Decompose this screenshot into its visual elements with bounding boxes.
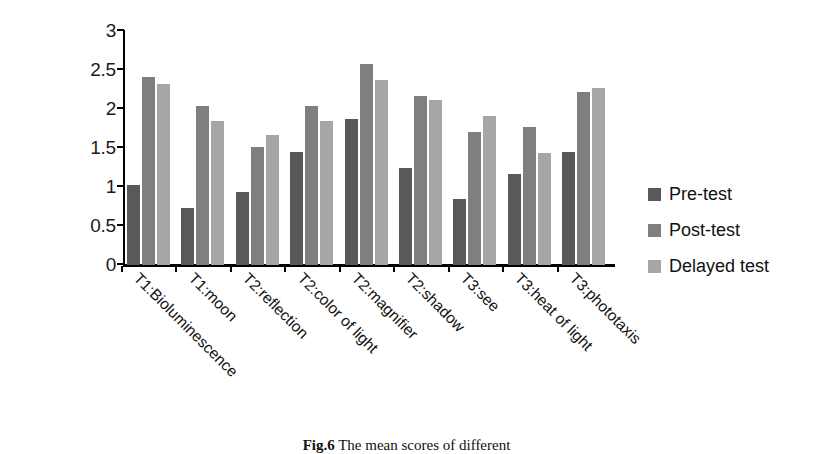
y-tick-mark	[117, 107, 124, 109]
bar[interactable]	[251, 147, 264, 265]
legend-label: Post-test	[669, 221, 740, 239]
bar-group	[399, 30, 442, 265]
bar[interactable]	[538, 153, 551, 265]
y-tick-mark	[117, 224, 124, 226]
legend-swatch-icon	[648, 224, 661, 237]
bar[interactable]	[508, 174, 521, 265]
bar-group	[453, 30, 496, 265]
bar[interactable]	[468, 132, 481, 265]
y-axis-tick-labels: 32.521.510.50	[80, 0, 116, 290]
bar[interactable]	[127, 185, 140, 265]
bar[interactable]	[290, 152, 303, 265]
chart-legend: Pre-testPost-testDelayed test	[648, 176, 808, 284]
x-category-label-text: T1:Bioluminescence	[131, 269, 242, 380]
legend-item[interactable]: Pre-test	[648, 176, 808, 212]
caption-figure-number: Fig.6	[303, 437, 335, 453]
bar[interactable]	[196, 106, 209, 265]
bar[interactable]	[375, 80, 388, 265]
bar[interactable]	[211, 121, 224, 265]
y-tick-mark	[117, 263, 124, 265]
x-axis-category-labels: T1:BioluminescenceT1:moonT2:reflectionT2…	[0, 270, 640, 410]
y-tick-label: 1.5	[90, 138, 116, 157]
x-category-label: T1:Bioluminescence	[131, 270, 241, 380]
y-tick-mark	[117, 29, 124, 31]
bar-group	[127, 30, 170, 265]
x-category-label: T1:moon	[186, 270, 240, 324]
bar[interactable]	[142, 77, 155, 265]
bar[interactable]	[157, 84, 170, 265]
bar-group	[508, 30, 551, 265]
y-tick-mark	[117, 68, 124, 70]
bar[interactable]	[577, 92, 590, 265]
bar-group	[562, 30, 605, 265]
legend-item[interactable]: Post-test	[648, 212, 808, 248]
y-tick-label: 0.5	[90, 216, 116, 235]
bar-group	[290, 30, 333, 265]
y-tick-label: 2	[106, 99, 116, 118]
bar[interactable]	[429, 100, 442, 265]
bar[interactable]	[320, 121, 333, 265]
y-tick-mark	[117, 185, 124, 187]
x-category-label-text: T1:moon	[185, 269, 240, 324]
bar-group	[181, 30, 224, 265]
bar[interactable]	[483, 116, 496, 265]
bar[interactable]	[399, 168, 412, 266]
bar[interactable]	[266, 135, 279, 265]
bar[interactable]	[592, 88, 605, 265]
legend-item[interactable]: Delayed test	[648, 248, 808, 284]
bar[interactable]	[453, 199, 466, 265]
y-tick-label: 2.5	[90, 60, 116, 79]
y-tick-label: 3	[106, 21, 116, 40]
legend-swatch-icon	[648, 188, 661, 201]
caption-text: The mean scores of different	[338, 437, 510, 453]
x-category-label: T3:see	[458, 270, 502, 314]
bar[interactable]	[181, 208, 194, 265]
bar[interactable]	[523, 127, 536, 265]
bar[interactable]	[360, 64, 373, 265]
bars-area	[125, 30, 615, 265]
bar-group	[236, 30, 279, 265]
x-category-label-text: T3:see	[458, 269, 504, 315]
bar-group	[345, 30, 388, 265]
legend-swatch-icon	[648, 260, 661, 273]
bar[interactable]	[414, 96, 427, 265]
y-tick-label: 1	[106, 177, 116, 196]
legend-label: Delayed test	[669, 257, 769, 275]
bar[interactable]	[236, 192, 249, 265]
chart-plot-area: 32.521.510.50	[0, 0, 640, 290]
bar[interactable]	[562, 152, 575, 265]
bar[interactable]	[345, 119, 358, 265]
figure-caption: Fig.6 The mean scores of different	[0, 437, 813, 454]
y-tick-mark	[117, 146, 124, 148]
legend-label: Pre-test	[669, 185, 732, 203]
bar[interactable]	[305, 106, 318, 265]
